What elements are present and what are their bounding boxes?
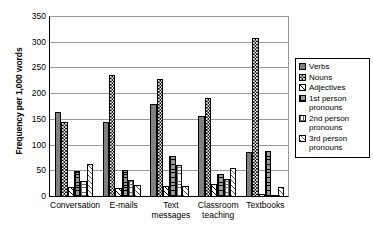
bar[interactable] [182, 186, 188, 197]
y-axis-tick-labels: 050100150200250300350 [13, 16, 46, 197]
y-axis-tick-label: 50 [18, 165, 46, 175]
bar-group [98, 17, 146, 197]
legend-item[interactable]: Verbs [299, 62, 367, 72]
bar-group [50, 17, 98, 197]
bar-groups [50, 17, 289, 197]
bar[interactable] [230, 168, 236, 197]
dark-dotted-swatch [299, 95, 306, 102]
x-axis-category-label: Text messages [147, 200, 194, 220]
y-axis-tick-label: 300 [18, 37, 46, 47]
x-axis-category-label: Textbooks [242, 200, 289, 220]
legend-item-label: Nouns [309, 73, 332, 83]
bar[interactable] [109, 75, 115, 197]
bar-group [193, 17, 241, 197]
checkerboard-swatch [299, 74, 306, 81]
light-diagonal-swatch [299, 84, 306, 91]
y-axis-tick-label: 250 [18, 62, 46, 72]
x-axis-category-labels: ConversationE-mailsText messagesClassroo… [50, 200, 289, 220]
bar[interactable] [252, 38, 258, 197]
legend-item-label: 3rd person pronouns [309, 134, 367, 153]
bar-group [241, 17, 289, 197]
y-axis-tick-label: 350 [18, 11, 46, 21]
light-dotted-swatch [299, 115, 306, 122]
bar[interactable] [134, 185, 140, 197]
chart-legend: VerbsNounsAdjectives1st person pronouns2… [295, 58, 370, 158]
y-axis-tick-label: 100 [18, 140, 46, 150]
bar[interactable] [278, 187, 284, 197]
bar[interactable] [157, 79, 163, 197]
diagonal-hatch-swatch [299, 135, 306, 142]
legend-item-label: Adjectives [309, 83, 345, 93]
chart-root: Frequency per 1,000 words 05010015020025… [0, 0, 373, 238]
bar[interactable] [265, 151, 271, 197]
y-axis-tick-label: 200 [18, 88, 46, 98]
legend-item[interactable]: Adjectives [299, 83, 367, 93]
legend-item[interactable]: 1st person pronouns [299, 94, 367, 113]
bar-group [146, 17, 194, 197]
x-axis-category-label: E-mails [100, 200, 147, 220]
legend-item[interactable]: Nouns [299, 73, 367, 83]
y-axis-tick-label: 0 [18, 191, 46, 201]
legend-item-label: 1st person pronouns [309, 94, 367, 113]
legend-item[interactable]: 2nd person pronouns [299, 114, 367, 133]
bar[interactable] [205, 98, 211, 197]
legend-item[interactable]: 3rd person pronouns [299, 134, 367, 153]
bar[interactable] [87, 164, 93, 197]
x-axis-category-label: Classroom teaching [195, 200, 242, 220]
legend-item-label: 2nd person pronouns [309, 114, 367, 133]
legend-item-label: Verbs [309, 62, 329, 72]
x-axis-category-label: Conversation [50, 200, 100, 220]
y-axis-tick-label: 150 [18, 114, 46, 124]
solid-gray-swatch [299, 63, 306, 70]
